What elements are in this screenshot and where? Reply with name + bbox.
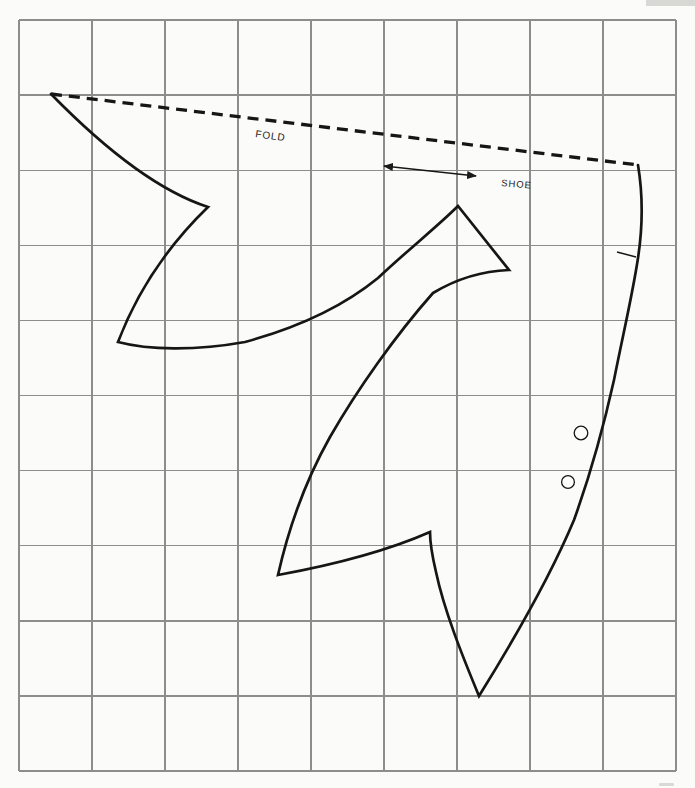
eyelet-circle: [562, 476, 575, 489]
scanned-pattern-page: FOLD SHOE: [0, 0, 695, 788]
eyelet-circle: [574, 426, 588, 440]
paper-background: [0, 0, 695, 788]
corner-tab: [646, 0, 695, 6]
pattern-diagram: FOLD SHOE: [0, 0, 695, 788]
page-edge-mark: [659, 783, 674, 786]
